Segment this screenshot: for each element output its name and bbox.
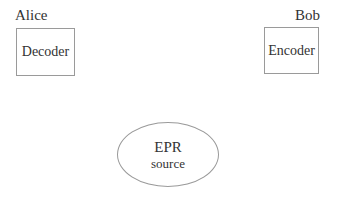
source-label: source [151, 156, 185, 171]
bob-label: Bob [295, 8, 320, 23]
epr-label: EPR [154, 139, 182, 156]
encoder-label: Encoder [268, 43, 315, 59]
diagram-canvas: Alice Decoder Bob Encoder EPR source [0, 0, 337, 200]
decoder-box: Decoder [16, 28, 75, 76]
epr-source-ellipse: EPR source [117, 122, 219, 187]
alice-label: Alice [15, 8, 47, 23]
decoder-label: Decoder [22, 44, 69, 60]
encoder-box: Encoder [264, 27, 319, 74]
